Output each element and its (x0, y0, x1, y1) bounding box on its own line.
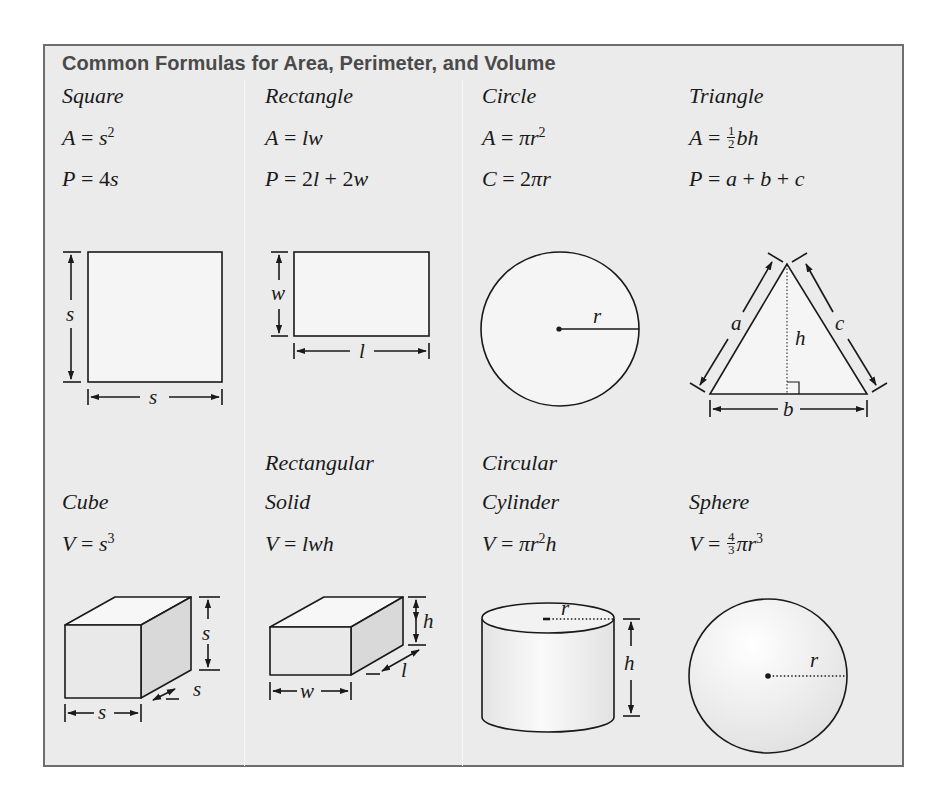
rectangular-solid-figure (270, 597, 426, 700)
sphere-figure (689, 599, 847, 753)
circle-radius-label: r (593, 304, 602, 328)
cube-width-label: s (98, 700, 106, 724)
cylinder-figure (482, 603, 640, 732)
triangle-base-label: b (783, 397, 794, 421)
triangle-side-c-label: c (835, 311, 845, 335)
square-figure (63, 252, 222, 405)
rectangle-length-label: l (359, 339, 365, 363)
sphere-radius-label: r (810, 648, 819, 672)
square-side-label: s (66, 302, 74, 326)
triangle-side-a-label: a (731, 311, 742, 335)
square-side-label: s (149, 385, 157, 409)
cylinder-height-label: h (624, 651, 635, 675)
cylinder-radius-label: r (561, 596, 570, 620)
triangle-height-label: h (795, 326, 806, 350)
cube-depth-label: s (193, 677, 201, 701)
rectangular-solid-length-label: l (401, 658, 407, 682)
cube-height-label: s (202, 621, 210, 645)
cube-figure (65, 597, 220, 722)
rectangular-solid-width-label: w (300, 679, 314, 703)
rectangular-solid-height-label: h (423, 609, 434, 633)
figures-layer: s s w l r (0, 0, 941, 807)
rectangle-figure (271, 252, 429, 359)
triangle-figure (690, 253, 887, 417)
rectangle-width-label: w (271, 281, 285, 305)
circle-figure (481, 252, 639, 406)
